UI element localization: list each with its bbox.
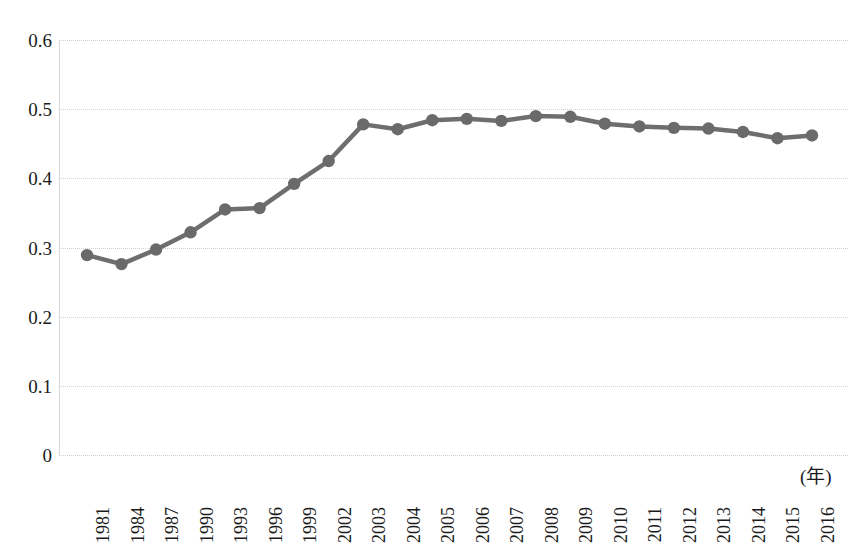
data-point-marker [426,114,438,126]
x-axis-unit-label: (年) [800,467,832,486]
data-point-marker [633,120,645,132]
data-point-marker [771,132,783,144]
data-point-marker [357,118,369,130]
x-axis-tick-label: 1996 [267,507,285,543]
data-point-marker [806,129,818,141]
x-axis-tick-label: 1987 [163,507,181,543]
y-axis: 0.60.50.40.30.20.10 [0,0,52,546]
y-axis-tick-label: 0.2 [4,308,52,327]
x-axis-tick-label: 1981 [94,507,112,543]
data-point-marker [495,115,507,127]
line-chart: 0.60.50.40.30.20.10 19811984198719901993… [0,0,854,546]
data-point-marker [668,122,680,134]
data-point-marker [184,226,196,238]
x-axis-tick-label: 2016 [819,507,837,543]
x-axis-tick-label: 2005 [439,507,457,543]
x-axis-tick-label: 2004 [405,507,423,543]
data-point-marker [564,111,576,123]
y-axis-tick-label: 0 [4,446,52,465]
x-axis-tick-label: 2007 [508,507,526,543]
x-axis-tick-label: 2014 [750,507,768,543]
y-axis-tick-label: 0.1 [4,377,52,396]
y-axis-tick-label: 0.3 [4,239,52,258]
data-point-marker [737,126,749,138]
x-axis-tick-label: 2008 [543,507,561,543]
plot-area [59,40,848,455]
data-point-marker [150,243,162,255]
x-axis-tick-label: 2012 [681,507,699,543]
x-axis: 1981198419871990199319961999200220032004… [59,455,848,515]
x-axis-tick-label: 2003 [370,507,388,543]
data-point-marker [115,258,127,270]
x-axis-tick-label: 1984 [129,507,147,543]
data-point-marker [253,202,265,214]
x-axis-tick-label: 1990 [198,507,216,543]
data-point-marker [530,110,542,122]
x-axis-tick-label: 2009 [577,507,595,543]
x-axis-tick-label: 2013 [715,507,733,543]
data-point-marker [461,113,473,125]
data-point-marker [288,178,300,190]
x-axis-tick-label: 2002 [336,507,354,543]
data-series-line [59,40,848,455]
y-axis-tick-label: 0.4 [4,169,52,188]
x-axis-tick-label: 2010 [612,507,630,543]
y-axis-tick-label: 0.6 [4,31,52,50]
data-point-marker [702,122,714,134]
x-axis-tick-label: 2011 [646,507,664,542]
x-axis-tick-label: 2015 [784,507,802,543]
data-point-marker [81,249,93,261]
data-point-marker [392,123,404,135]
x-axis-tick-label: 1999 [301,507,319,543]
data-point-marker [599,117,611,129]
series-line [87,116,812,264]
y-axis-tick-label: 0.5 [4,100,52,119]
x-axis-tick-label: 2006 [474,507,492,543]
x-axis-tick-label: 1993 [232,507,250,543]
data-point-marker [219,203,231,215]
data-point-marker [322,155,334,167]
